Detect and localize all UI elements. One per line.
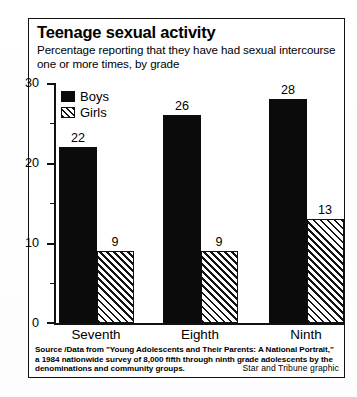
source-note: Source /Data from "Young Adolescents and…: [35, 345, 341, 374]
graphic-credit: Star and Tribune graphic: [242, 364, 339, 374]
x-axis-line: [54, 323, 345, 325]
legend-swatch-girls-icon: [61, 107, 75, 119]
y-tick-20: [47, 163, 55, 165]
bar-ninth-girls[interactable]: [307, 219, 344, 323]
credit-row: denominations and community groups. Star…: [35, 364, 341, 374]
y-tick-10: [47, 243, 55, 245]
x-tick-label-seventh: Seventh: [51, 327, 141, 343]
x-tick-label-eighth: Eighth: [155, 327, 245, 343]
source-line-1: Source /Data from "Young Adolescents and…: [35, 345, 341, 355]
y-tick-minor-25: [50, 123, 55, 124]
y-tick-label-30: 30: [17, 77, 39, 90]
y-tick-label-0: 0: [17, 317, 39, 330]
bar-value-ninth-girls: 13: [305, 204, 345, 217]
bar-value-seventh-girls: 9: [95, 236, 135, 249]
y-tick-minor-15: [50, 203, 55, 204]
y-tick-label-20: 20: [17, 157, 39, 170]
bar-eighth-boys[interactable]: [163, 115, 201, 323]
bar-value-eighth-boys: 26: [162, 100, 202, 113]
bar-seventh-girls[interactable]: [97, 251, 134, 323]
chart-graphic-frame: Teenage sexual activity Percentage repor…: [28, 18, 345, 378]
bar-ninth-boys[interactable]: [269, 99, 307, 323]
bar-eighth-girls[interactable]: [201, 251, 238, 323]
y-tick-minor-5: [50, 283, 55, 284]
bar-value-seventh-boys: 22: [58, 132, 98, 145]
legend-label-girls: Girls: [80, 106, 107, 119]
chart-legend: Boys Girls: [61, 89, 109, 121]
legend-item-boys[interactable]: Boys: [61, 89, 109, 104]
legend-label-boys: Boys: [80, 90, 109, 103]
bar-value-ninth-boys: 28: [268, 84, 308, 97]
legend-item-girls[interactable]: Girls: [61, 105, 109, 120]
source-line-3: denominations and community groups.: [35, 364, 185, 373]
legend-swatch-boys-icon: [61, 91, 75, 103]
y-tick-label-10: 10: [17, 237, 39, 250]
plot-area: 30 20 10 0 22 9 Seventh 26 9 Eighth 28 1…: [29, 19, 346, 379]
y-tick-0: [47, 322, 55, 324]
y-tick-30: [47, 83, 55, 85]
x-tick-label-ninth: Ninth: [261, 327, 351, 343]
bar-seventh-boys[interactable]: [59, 147, 97, 323]
bar-value-eighth-girls: 9: [199, 236, 239, 249]
